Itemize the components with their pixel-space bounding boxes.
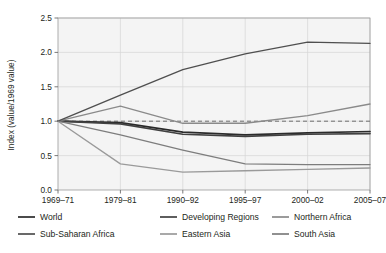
legend-label: South Asia bbox=[294, 229, 335, 239]
legend-label: Eastern Asia bbox=[182, 229, 230, 239]
x-axis-ticks bbox=[58, 190, 370, 194]
legend-label: World bbox=[40, 212, 63, 222]
y-axis-title: Index (value/1969 value) bbox=[6, 59, 16, 150]
legend-item-sub-saharan-africa[interactable]: Sub-Saharan Africa bbox=[18, 229, 115, 239]
x-tick-label: 2005–07 bbox=[354, 195, 386, 205]
y-tick-label: 1.0 bbox=[40, 116, 52, 126]
legend-item-south-asia[interactable]: South Asia bbox=[272, 229, 335, 239]
x-tick-label: 2000–02 bbox=[291, 195, 324, 205]
y-tick-label: 0.0 bbox=[40, 185, 52, 195]
x-tick-label: 1969–71 bbox=[42, 195, 75, 205]
y-axis-tick-labels: 0.00.51.01.52.02.5 bbox=[40, 13, 52, 195]
x-tick-label: 1979–81 bbox=[104, 195, 137, 205]
legend-label: Developing Regions bbox=[182, 212, 259, 222]
legend-label: Northern Africa bbox=[294, 212, 352, 222]
legend-item-eastern-asia[interactable]: Eastern Asia bbox=[160, 229, 230, 239]
line-chart: 0.00.51.01.52.02.5 1969–711979–811990–92… bbox=[0, 0, 386, 253]
y-axis-ticks bbox=[55, 18, 59, 190]
y-tick-label: 0.5 bbox=[40, 151, 52, 161]
y-tick-label: 2.5 bbox=[40, 13, 52, 23]
y-tick-label: 1.5 bbox=[40, 82, 52, 92]
x-axis-tick-labels: 1969–711979–811990–921995–972000–022005–… bbox=[42, 195, 386, 205]
legend-item-world[interactable]: World bbox=[18, 212, 63, 222]
legend-label: Sub-Saharan Africa bbox=[40, 229, 115, 239]
chart-legend: WorldDeveloping RegionsNorthern AfricaSu… bbox=[18, 212, 352, 239]
x-tick-label: 1990–92 bbox=[167, 195, 200, 205]
legend-item-northern-africa[interactable]: Northern Africa bbox=[272, 212, 352, 222]
chart-figure: 0.00.51.01.52.02.5 1969–711979–811990–92… bbox=[0, 0, 386, 253]
x-tick-label: 1995–97 bbox=[229, 195, 262, 205]
legend-item-developing-regions[interactable]: Developing Regions bbox=[160, 212, 259, 222]
y-tick-label: 2.0 bbox=[40, 47, 52, 57]
